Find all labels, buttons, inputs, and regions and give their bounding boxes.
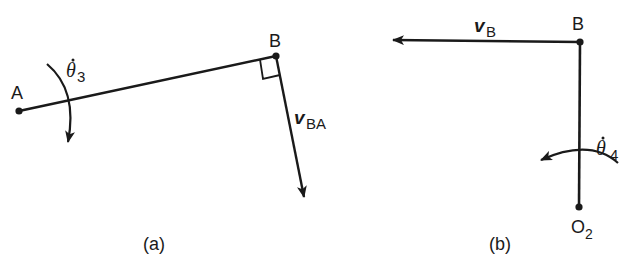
svg-text:θ: θ [66, 59, 76, 81]
svg-text:B: B [486, 23, 496, 40]
point-b-dot [576, 38, 583, 45]
label-a: A [11, 83, 23, 103]
svg-text:θ: θ [596, 137, 606, 159]
svg-text:3: 3 [77, 68, 85, 85]
label-v-b: v B [474, 15, 496, 40]
velocity-diagram: A B θ 3 v BA (a) B v B θ [0, 0, 633, 274]
svg-text:v: v [294, 107, 306, 128]
caption-b: (b) [489, 234, 511, 254]
link-ab [19, 56, 276, 111]
point-a-dot [15, 107, 22, 114]
label-b-b: B [572, 14, 584, 34]
point-o2-dot [575, 203, 582, 210]
label-theta-dot-4: θ 4 [596, 137, 618, 164]
svg-text:BA: BA [306, 115, 326, 132]
label-theta-dot-3: θ 3 [66, 59, 85, 86]
label-o2: O 2 [571, 217, 593, 242]
svg-text:v: v [474, 15, 486, 36]
label-v-ba: v BA [294, 107, 326, 132]
caption-a: (a) [143, 234, 165, 254]
panel-a: A B θ 3 v BA (a) [11, 31, 326, 254]
panel-b: B v B θ 4 O 2 (b) [393, 14, 618, 254]
svg-text:4: 4 [610, 146, 618, 163]
label-b-a: B [269, 31, 281, 51]
velocity-vector-b [393, 40, 580, 42]
svg-text:2: 2 [585, 226, 593, 242]
svg-text:O: O [571, 217, 585, 237]
link-b-o2 [579, 42, 580, 207]
